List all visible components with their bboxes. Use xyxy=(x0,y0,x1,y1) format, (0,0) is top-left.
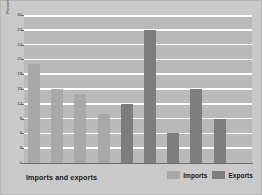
y-axis-tick-mark xyxy=(21,89,24,90)
y-axis-tick-mark xyxy=(21,15,24,16)
y-axis-tick-mark xyxy=(21,74,24,75)
legend-item-exports[interactable]: Exports xyxy=(212,171,253,179)
gridline xyxy=(24,59,252,61)
bar-exports-sulfur xyxy=(144,30,156,163)
y-axis-tick-mark xyxy=(21,59,24,60)
bar-exports-phosphate xyxy=(190,89,202,163)
gridline xyxy=(24,29,252,31)
bar-imports-crude-oil xyxy=(51,89,63,163)
y-axis-tick-mark xyxy=(21,104,24,105)
gridline xyxy=(24,44,252,46)
y-axis-tick-mark xyxy=(21,119,24,120)
legend-label-exports: Exports xyxy=(228,172,253,179)
y-axis-tick-mark xyxy=(21,133,24,134)
gridline xyxy=(24,15,252,16)
legend-swatch-imports xyxy=(167,171,180,179)
legend-item-imports[interactable]: Imports xyxy=(167,171,207,179)
y-axis-tick-mark xyxy=(21,148,24,149)
bar-imports-capital-goods xyxy=(28,64,40,163)
bar-exports-phosphoric-acid xyxy=(167,133,179,163)
y-axis-tick-mark xyxy=(21,45,24,46)
bar-exports-clothing xyxy=(214,119,226,163)
bar-imports-consumer-goods xyxy=(74,94,86,163)
legend-swatch-exports xyxy=(212,171,225,179)
chart-title: Imports and exports xyxy=(26,173,97,182)
legend-label-imports: Imports xyxy=(183,172,207,179)
bar-exports-food-beverages-and-tobacco xyxy=(121,104,133,163)
x-axis-line xyxy=(24,163,253,164)
y-axis-tick-mark xyxy=(21,163,24,164)
bar-chart-figure: Percentage of total 036912151821242730 C… xyxy=(0,0,262,195)
plot-area: Capital goodsCrude oilConsumer goodsFood… xyxy=(24,15,252,163)
y-axis-tick-mark xyxy=(21,30,24,31)
gridline xyxy=(24,73,252,75)
chart-legend: ImportsExports xyxy=(167,171,253,179)
bar-imports-food-beverages-and-tobacco xyxy=(98,114,110,163)
